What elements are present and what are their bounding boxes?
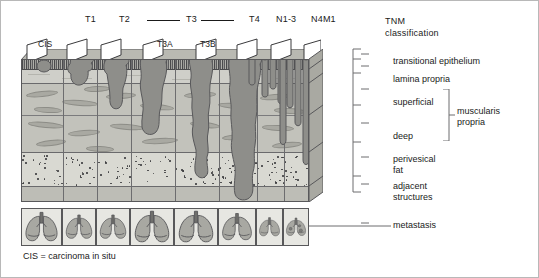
tnm-heading-line2: classification <box>385 28 439 38</box>
layer-label-transitional-epithelium: transitional epithelium <box>393 56 480 67</box>
t3-rule-left <box>147 20 180 21</box>
stage-label-n1-3: N1-3 <box>276 14 296 24</box>
layer-label-metastasis: metastasis <box>393 220 436 231</box>
metastasis-leader-line <box>309 221 391 231</box>
block-side-face <box>309 49 323 202</box>
metastatic-nodule <box>299 229 302 232</box>
bladder-wall-block <box>21 59 309 202</box>
tumour-t4 <box>229 60 262 200</box>
lung-icon <box>97 209 129 245</box>
tumour-cis <box>37 60 51 72</box>
tnm-classification-figure: T1 T2 T3 T4 N1-3 N4M1 TNM classification… <box>0 0 539 278</box>
layer-label-deep: deep <box>393 131 413 142</box>
lung-icon <box>257 209 282 245</box>
tumour-t3a <box>140 60 167 134</box>
group-label-muscularis-propria-line2: propria <box>457 117 485 128</box>
lung-t3b <box>174 208 218 246</box>
lung-icon <box>22 209 61 245</box>
metastatic-nodule <box>298 225 300 227</box>
panel-label-t3a: T3A <box>157 39 173 49</box>
stage-label-t3: T3 <box>186 14 197 24</box>
stage-label-t2: T2 <box>119 14 130 24</box>
layer-label-perivesical-fat-line2: fat <box>393 165 403 176</box>
layer-leader-lines <box>323 45 393 235</box>
tumour-n4m1 <box>278 60 309 165</box>
layer-label-adjacent-structures-line1: adjacent <box>393 181 427 192</box>
layer-label-lamina-propria: lamina propria <box>393 74 450 85</box>
metastatic-nodule <box>289 227 292 230</box>
lung-n4m1 <box>283 208 309 246</box>
lung-n13 <box>256 208 283 246</box>
lung-icon <box>175 209 217 245</box>
layer-label-perivesical-fat-line1: perivesical <box>393 154 436 165</box>
lung-t3a <box>130 208 174 246</box>
stage-label-t1: T1 <box>85 14 96 24</box>
lung-icon <box>63 209 95 245</box>
lung-icon <box>219 209 255 245</box>
tumour-t2 <box>104 60 129 109</box>
layer-label-adjacent-structures-line2: structures <box>393 192 433 203</box>
lung-icon <box>284 209 308 245</box>
lung-cis <box>21 208 62 246</box>
stage-label-n4m1: N4M1 <box>311 14 336 24</box>
metastasis-lung-row <box>21 208 309 246</box>
layer-label-superficial: superficial <box>393 97 434 108</box>
t3-rule-right <box>201 20 234 21</box>
tumour-t1 <box>68 60 94 85</box>
tumour-t3b <box>189 60 213 178</box>
lung-t4 <box>218 208 256 246</box>
stage-label-t4: T4 <box>249 14 260 24</box>
lung-icon <box>131 209 173 245</box>
muscularis-propria-bracket <box>441 89 455 141</box>
tumour-shapes <box>22 60 309 202</box>
tnm-heading-line1: TNM <box>385 16 405 26</box>
panel-label-t3b: T3B <box>200 39 216 49</box>
figure-caption: CIS = carcinoma in situ <box>23 251 116 261</box>
group-label-muscularis-propria-line1: muscularis <box>457 106 500 117</box>
lung-t2 <box>96 208 130 246</box>
lung-t1 <box>62 208 96 246</box>
panel-label-cis: CIS <box>38 39 52 49</box>
